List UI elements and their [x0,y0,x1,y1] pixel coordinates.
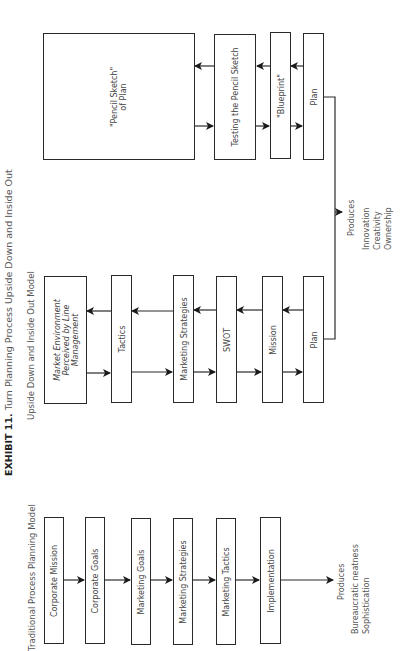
market-environment-label: Market Environment Perceived by Line Man… [52,299,79,381]
exhibit-title-text: Turn Planning Process Upside Down and In… [3,169,14,410]
traditional-produces-items: Bureaucratic neatness Sophistication [350,544,372,634]
corporate-goals-box: Corporate Goals [85,517,105,644]
market-environment-box: Market Environment Perceived by Line Man… [44,276,87,404]
corporate-mission-label: Corporate Mission [50,544,59,616]
blueprint-box: "Blueprint" [270,32,291,159]
upside-produces-items: Innovation Creativity Ownership [361,207,394,250]
mission-label: Mission [268,325,277,355]
mission-box: Mission [262,276,283,403]
tactics-label: Tactics [117,326,126,353]
upside-produces: Produces [347,200,357,236]
produces-creativity: Creativity [372,207,383,250]
marketing-strategies-label-upside: Marketing Strategies [179,297,188,380]
testing-pencil-sketch-box: Testing the Pencil Sketch [214,34,256,160]
pencil-sketch-box: "Pencil Sketch" of Plan [43,33,195,160]
upside-model-title: Upside Down and Inside Out Model [26,271,36,420]
marketing-strategies-box-upside: Marketing Strategies [173,275,194,403]
marketing-strategies-label-traditional: Marketing Strategies [179,540,188,623]
implementation-box: Implementation [260,517,281,644]
produces-innovation: Innovation [361,207,372,250]
plan-label-middle: Plan [309,331,318,348]
traditional-model-title: Traditional Process Planning Model [27,504,37,651]
testing-pencil-sketch-label: Testing the Pencil Sketch [231,47,240,146]
corporate-mission-box: Corporate Mission [44,517,64,644]
traditional-produces-label: Produces [337,564,347,600]
exhibit-label: EXHIBIT 11. [3,413,14,476]
marketing-goals-box: Marketing Goals [131,518,151,645]
marketing-tactics-label: Marketing Tactics [222,547,231,616]
blueprint-label: "Blueprint" [276,74,285,118]
pencil-sketch-label: "Pencil Sketch" of Plan [110,66,128,126]
upside-produces-label: Produces [347,200,357,236]
tactics-box: Tactics [111,275,132,403]
marketing-tactics-box: Marketing Tactics [216,518,236,645]
exhibit-title: EXHIBIT 11. Turn Planning Process Upside… [3,169,14,476]
plan-box-middle: Plan [303,276,324,403]
marketing-goals-label: Marketing Goals [137,549,146,614]
marketing-strategies-box-traditional: Marketing Strategies [173,518,193,645]
produces-bureaucratic-neatness: Bureaucratic neatness [350,544,361,634]
plan-box-top: Plan [303,33,324,160]
swot-box: SWOT [216,276,237,403]
produces-ownership: Ownership [383,207,394,250]
plan-label-top: Plan [309,88,318,105]
swot-label: SWOT [222,327,231,351]
produces-sophistication: Sophistication [361,544,372,634]
implementation-label: Implementation [266,549,275,613]
corporate-goals-label: Corporate Goals [91,548,100,613]
